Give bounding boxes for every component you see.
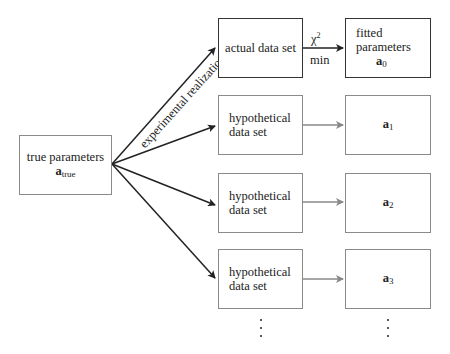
monte-carlo-diagram: experimental realization true parameters… [0, 0, 450, 354]
continuation-dots [0, 0, 450, 354]
